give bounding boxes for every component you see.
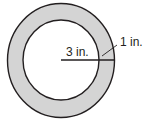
ring-width-label: 1 in. (120, 35, 143, 49)
annulus-diagram: 3 in. 1 in. (0, 0, 153, 125)
inner-radius-label: 3 in. (66, 45, 89, 59)
